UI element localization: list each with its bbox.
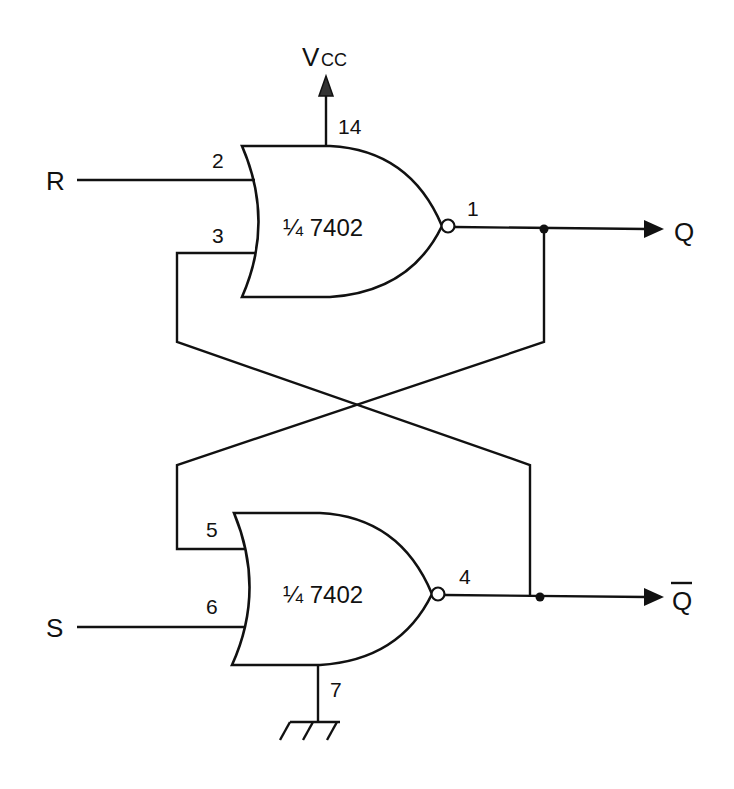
qbar-arrow-icon [644, 588, 664, 606]
pin-2-label: 2 [212, 149, 224, 172]
gate-bottom-label: ¼ 7402 [283, 581, 363, 608]
nor-gate-bottom: ¼ 7402 [232, 513, 445, 665]
q-output-label: Q [674, 217, 694, 247]
qbar-junction-dot [536, 593, 545, 602]
pin-5-label: 5 [206, 518, 218, 541]
s-input-label: S [46, 613, 63, 643]
nor-gate-top: ¼ 7402 [242, 146, 455, 297]
inverter-bubble-icon [442, 220, 455, 233]
pin-3-label: 3 [212, 224, 224, 247]
vcc-label: V [302, 42, 320, 72]
pin-7-label: 7 [330, 678, 342, 701]
pin-14-label: 14 [338, 115, 362, 138]
vcc-supply: V CC 14 [302, 42, 362, 147]
q-output-wire [455, 227, 646, 229]
ground-symbol: 7 [280, 665, 342, 740]
qbar-output-label: Q [672, 586, 692, 616]
vcc-subscript: CC [321, 50, 347, 70]
sr-latch-schematic: V CC 14 ¼ 7402 R 2 3 1 Q ¼ 7402 S 5 6 4 … [0, 0, 734, 789]
r-input-label: R [46, 166, 65, 196]
qbar-output-wire [445, 595, 646, 597]
gate-top-label: ¼ 7402 [283, 214, 363, 241]
pin-6-label: 6 [206, 595, 218, 618]
pin-4-label: 4 [459, 565, 471, 588]
q-arrow-icon [644, 220, 664, 238]
inverter-bubble-icon [432, 588, 445, 601]
pin-1-label: 1 [467, 197, 479, 220]
vcc-arrow-icon [319, 76, 333, 96]
